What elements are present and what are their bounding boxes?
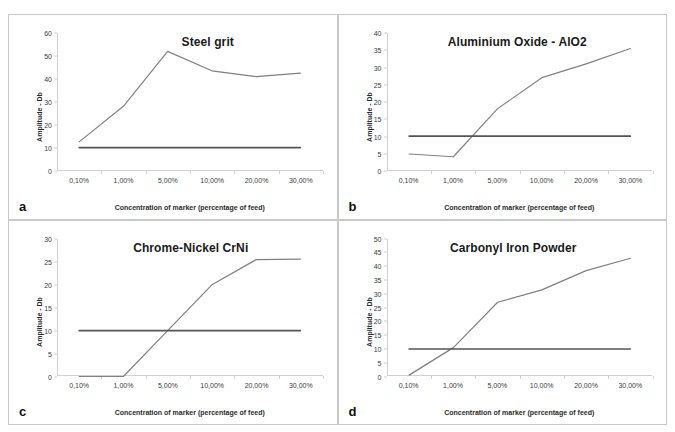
x-tick-label: 20,00% — [245, 382, 269, 389]
x-tick-label: 10,00% — [530, 177, 554, 184]
x-tick-mark — [234, 171, 235, 174]
y-tick-label: 40 — [374, 263, 382, 270]
y-tick-label: 10 — [374, 133, 382, 140]
panel-letter-c: c — [19, 405, 26, 418]
y-tick-label: 5 — [378, 359, 382, 366]
y-tick-mark — [384, 376, 387, 377]
chart-panel-a: Steel grit Amplitude - Db 0102030405060 … — [8, 14, 338, 220]
series-layer-c — [57, 239, 323, 377]
figure-four-panel-amplitude-charts: Steel grit Amplitude - Db 0102030405060 … — [0, 0, 675, 432]
x-tick-label: 10,00% — [530, 382, 554, 389]
y-tick-label: 50 — [44, 53, 52, 60]
x-tick-mark — [279, 171, 280, 174]
series-line — [79, 259, 300, 376]
y-tick-label: 0 — [378, 168, 382, 175]
y-tick-label: 35 — [374, 276, 382, 283]
x-axis-label-a: Concentration of marker (percentage of f… — [49, 204, 331, 211]
panel-letter-a: a — [19, 200, 26, 213]
plot-area-d: 05101520253035404550 0,10%1,00%5,00%10,0… — [387, 239, 653, 377]
panel-grid: Steel grit Amplitude - Db 0102030405060 … — [8, 14, 667, 425]
x-tick-mark — [608, 376, 609, 379]
y-tick-label: 50 — [374, 235, 382, 242]
y-axis-label-c: Amplitude - Db — [36, 297, 43, 347]
y-tick-label: 40 — [374, 30, 382, 37]
series-layer-b — [387, 33, 653, 171]
y-tick-label: 10 — [374, 345, 382, 352]
x-tick-label: 5,00% — [487, 177, 507, 184]
chart-panel-b: Aluminium Oxide - AlO2 Amplitude - Db 05… — [338, 14, 668, 220]
x-tick-mark — [101, 171, 102, 174]
x-tick-mark — [323, 171, 324, 174]
x-tick-label: 5,00% — [158, 382, 178, 389]
x-axis-label-c: Concentration of marker (percentage of f… — [49, 409, 331, 416]
y-tick-label: 0 — [378, 373, 382, 380]
series-layer-d — [387, 239, 653, 377]
series-layer-a — [57, 33, 323, 171]
plot-area-a: 0102030405060 0,10%1,00%5,00%10,00%20,00… — [57, 33, 323, 171]
chart-panel-c: Chrome-Nickel CrNi Amplitude - Db 051015… — [8, 220, 338, 426]
panel-letter-b: b — [349, 200, 357, 213]
x-tick-mark — [146, 376, 147, 379]
y-tick-label: 20 — [44, 122, 52, 129]
y-tick-label: 30 — [374, 290, 382, 297]
series-line — [409, 48, 630, 156]
panel-letter-d: d — [349, 405, 357, 418]
y-tick-label: 0 — [48, 168, 52, 175]
x-tick-label: 10,00% — [200, 177, 224, 184]
y-tick-label: 40 — [44, 76, 52, 83]
y-tick-label: 30 — [374, 64, 382, 71]
y-tick-label: 45 — [374, 249, 382, 256]
x-tick-mark — [653, 376, 654, 379]
series-line — [79, 51, 300, 142]
x-tick-label: 5,00% — [158, 177, 178, 184]
y-tick-label: 60 — [44, 30, 52, 37]
x-tick-mark — [146, 171, 147, 174]
y-tick-label: 15 — [374, 332, 382, 339]
x-tick-mark — [190, 376, 191, 379]
y-tick-label: 25 — [44, 258, 52, 265]
y-tick-label: 35 — [374, 47, 382, 54]
y-tick-label: 25 — [374, 81, 382, 88]
x-tick-mark — [279, 376, 280, 379]
x-tick-label: 30,00% — [618, 382, 642, 389]
y-tick-label: 5 — [378, 150, 382, 157]
x-tick-label: 20,00% — [574, 177, 598, 184]
x-tick-mark — [520, 171, 521, 174]
x-tick-label: 30,00% — [289, 177, 313, 184]
y-tick-mark — [384, 171, 387, 172]
x-tick-label: 1,00% — [443, 382, 463, 389]
series-line — [409, 258, 630, 375]
plot-area-c: 051015202530 0,10%1,00%5,00%10,00%20,00%… — [57, 239, 323, 377]
y-tick-label: 15 — [44, 304, 52, 311]
x-tick-mark — [234, 376, 235, 379]
y-tick-mark — [54, 376, 57, 377]
x-tick-label: 1,00% — [114, 177, 134, 184]
y-tick-label: 10 — [44, 145, 52, 152]
x-tick-mark — [564, 171, 565, 174]
y-tick-label: 30 — [44, 235, 52, 242]
x-tick-mark — [475, 376, 476, 379]
plot-area-b: 0510152025303540 0,10%1,00%5,00%10,00%20… — [387, 33, 653, 171]
y-tick-mark — [54, 171, 57, 172]
x-tick-label: 1,00% — [443, 177, 463, 184]
y-tick-label: 15 — [374, 116, 382, 123]
x-tick-label: 10,00% — [200, 382, 224, 389]
x-tick-mark — [431, 171, 432, 174]
y-tick-label: 20 — [374, 318, 382, 325]
x-tick-mark — [653, 171, 654, 174]
x-tick-label: 30,00% — [289, 382, 313, 389]
y-tick-label: 10 — [44, 327, 52, 334]
chart-panel-d: Carbonyl Iron Powder Amplitude - Db 0510… — [338, 220, 668, 426]
x-tick-label: 30,00% — [618, 177, 642, 184]
y-tick-label: 0 — [48, 373, 52, 380]
x-tick-label: 5,00% — [487, 382, 507, 389]
y-tick-label: 25 — [374, 304, 382, 311]
x-tick-mark — [431, 376, 432, 379]
x-axis-label-d: Concentration of marker (percentage of f… — [379, 409, 661, 416]
x-tick-label: 20,00% — [574, 382, 598, 389]
y-tick-label: 20 — [44, 281, 52, 288]
x-tick-label: 0,10% — [399, 177, 419, 184]
x-tick-mark — [323, 376, 324, 379]
x-tick-mark — [190, 171, 191, 174]
x-tick-label: 0,10% — [69, 382, 89, 389]
